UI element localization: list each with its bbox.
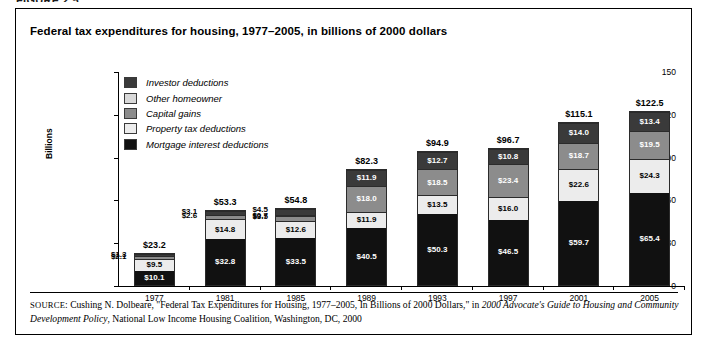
stacked-bar[interactable]: $59.7$22.6$18.7$14.0 xyxy=(558,122,599,286)
bar-total-label: $82.3 xyxy=(355,156,378,166)
bar-group[interactable]: $40.5$11.9$18.0$11.9$82.3 xyxy=(346,169,387,286)
bar-segment-label: $10.1 xyxy=(144,274,164,282)
bar-segment-label: $11.9 xyxy=(357,216,377,224)
x-tick xyxy=(189,286,190,290)
bar-group[interactable]: $50.3$13.5$18.5$12.7$94.9 xyxy=(417,151,458,286)
stacked-bar[interactable]: $65.4$24.3$19.5$13.4 xyxy=(629,111,670,286)
bar-segment[interactable]: $10.1 xyxy=(135,271,174,285)
y-tick xyxy=(114,72,119,73)
source-label: SOURCE xyxy=(30,300,65,310)
legend-item[interactable]: Investor deductions xyxy=(124,75,269,90)
bar-group[interactable]: $46.5$16.0$23.4$10.8$96.7 xyxy=(488,148,529,286)
bar-group[interactable]: $32.8$14.8$53.3 xyxy=(205,210,246,286)
legend-item[interactable]: Other homeowner xyxy=(124,90,269,105)
legend-label: Mortgage interest deductions xyxy=(146,139,269,150)
legend-label: Capital gains xyxy=(146,108,201,119)
bar-segment[interactable]: $12.7 xyxy=(418,152,457,170)
bar-total-label: $96.7 xyxy=(497,135,520,145)
y-axis-title: Billions xyxy=(44,128,54,159)
bar-segment-label: $14.8 xyxy=(215,226,235,234)
stacked-bar[interactable]: $46.5$16.0$23.4$10.8 xyxy=(488,148,529,286)
source-note: SOURCE: Cushing N. Dolbeare, "Federal Ta… xyxy=(30,298,680,325)
y-tick xyxy=(114,115,119,116)
x-tick xyxy=(260,286,261,290)
bar-segment[interactable]: $11.9 xyxy=(347,170,386,187)
bar-segment-label: $11.9 xyxy=(357,174,377,182)
bar-segment[interactable]: $14.8 xyxy=(206,219,245,240)
bar-segment-label: $40.5 xyxy=(357,253,377,261)
bar-segment[interactable]: $13.4 xyxy=(630,112,669,131)
legend-label: Property tax deductions xyxy=(146,123,246,134)
y-tick xyxy=(114,286,119,287)
bar-segment-label: $13.4 xyxy=(640,118,660,126)
bar-segment-label: $46.5 xyxy=(498,248,518,256)
bar-segment[interactable]: $18.5 xyxy=(418,169,457,195)
bar-group[interactable]: $10.1$9.5$23.2 xyxy=(134,253,175,286)
bar-group[interactable]: $33.5$12.6$54.8 xyxy=(275,208,316,286)
stacked-bar[interactable]: $10.1$9.5 xyxy=(134,253,175,286)
bar-segment[interactable]: $59.7 xyxy=(559,201,598,285)
bar-segment[interactable]: $16.0 xyxy=(489,197,528,220)
bar-segment-label: $14.0 xyxy=(569,129,589,137)
bar-segment[interactable]: $46.5 xyxy=(489,220,528,285)
figure-heading: FIGURE 2.5 xyxy=(16,0,79,2)
bar-segment[interactable]: $22.6 xyxy=(559,169,598,201)
bar-segment[interactable]: $24.3 xyxy=(630,159,669,193)
bar-segment-callout: $1.3 xyxy=(111,251,127,259)
y-tick xyxy=(114,200,119,201)
bar-segment[interactable]: $33.5 xyxy=(276,238,315,285)
source-text-2: , National Low Income Housing Coalition,… xyxy=(108,313,362,324)
bar-group[interactable]: $59.7$22.6$18.7$14.0$115.1 xyxy=(558,122,599,286)
bar-segment[interactable] xyxy=(135,256,174,259)
legend-label: Other homeowner xyxy=(146,93,222,104)
bar-segment-label: $13.5 xyxy=(427,201,447,209)
stacked-bar[interactable]: $40.5$11.9$18.0$11.9 xyxy=(346,169,387,286)
bar-segment[interactable]: $23.4 xyxy=(489,164,528,197)
bar-segment[interactable] xyxy=(276,216,315,221)
bar-segment[interactable] xyxy=(276,209,315,215)
bar-segment[interactable]: $13.5 xyxy=(418,195,457,214)
bar-segment[interactable] xyxy=(206,215,245,219)
stacked-bar[interactable]: $33.5$12.6 xyxy=(275,208,316,286)
legend-label: Investor deductions xyxy=(146,77,228,88)
bar-segment[interactable]: $10.8 xyxy=(489,149,528,164)
bar-segment-label: $18.7 xyxy=(569,152,589,160)
legend-swatch xyxy=(124,139,137,150)
bar-total-label: $53.3 xyxy=(214,197,237,207)
x-tick xyxy=(472,286,473,290)
x-tick xyxy=(613,286,614,290)
stacked-bar[interactable]: $50.3$13.5$18.5$12.7 xyxy=(417,151,458,286)
bar-segment[interactable] xyxy=(135,254,174,256)
bar-segment[interactable]: $32.8 xyxy=(206,239,245,285)
bar-segment-label: $32.8 xyxy=(215,258,235,266)
bar-segment-callout: $4.5 xyxy=(252,206,268,214)
legend-item[interactable]: Property tax deductions xyxy=(124,121,269,136)
bar-segment-label: $12.6 xyxy=(286,226,306,234)
bar-segment[interactable]: $50.3 xyxy=(418,214,457,285)
legend-swatch xyxy=(124,108,137,119)
bar-segment[interactable] xyxy=(206,211,245,215)
bar-segment[interactable]: $18.7 xyxy=(559,143,598,169)
bar-segment[interactable]: $19.5 xyxy=(630,131,669,158)
bar-segment[interactable]: $18.0 xyxy=(347,186,386,211)
source-divider xyxy=(30,292,678,293)
bar-segment[interactable]: $12.6 xyxy=(276,221,315,239)
bar-segment[interactable]: $9.5 xyxy=(135,259,174,272)
bar-segment[interactable] xyxy=(276,215,315,216)
bar-total-label: $23.2 xyxy=(143,240,166,250)
legend-item[interactable]: Mortgage interest deductions xyxy=(124,137,269,152)
bar-segment[interactable]: $11.9 xyxy=(347,212,386,229)
stacked-bar[interactable]: $32.8$14.8 xyxy=(205,210,246,286)
bar-segment-label: $16.0 xyxy=(498,205,518,213)
bar-segment-label: $23.4 xyxy=(498,177,518,185)
legend-item[interactable]: Capital gains xyxy=(124,106,269,121)
bar-segment[interactable]: $40.5 xyxy=(347,228,386,285)
bar-segment-label: $22.6 xyxy=(569,181,589,189)
bar-segment[interactable]: $14.0 xyxy=(559,123,598,143)
bar-group[interactable]: $65.4$24.3$19.5$13.4$122.5 xyxy=(629,111,670,286)
bar-segment-label: $59.7 xyxy=(569,239,589,247)
bar-total-label: $122.5 xyxy=(636,98,664,108)
figure-box: Federal tax expenditures for housing, 19… xyxy=(15,8,692,335)
x-tick xyxy=(401,286,402,290)
bar-segment[interactable]: $65.4 xyxy=(630,193,669,285)
